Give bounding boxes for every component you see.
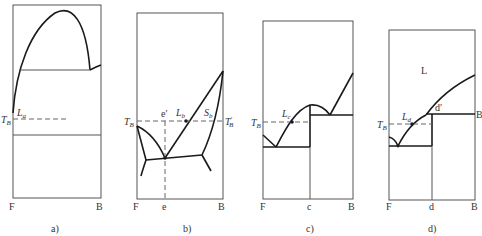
panel-b-caption: b) <box>183 223 191 235</box>
panel-a-liquidus-right <box>90 65 101 70</box>
panel-d-axis-b: B <box>471 201 478 212</box>
panel-a-frame <box>13 5 101 198</box>
panel-d-tb-label: TB <box>377 119 388 132</box>
panel-c-left-liquidus <box>263 135 276 147</box>
panel-d-liquid-region-label: L <box>421 65 427 76</box>
panel-c-lc-label: Lc <box>281 108 292 121</box>
panel-d-dprime-label: d′ <box>435 102 442 113</box>
panel-b-eutectic-point <box>163 156 167 160</box>
panel-d-liquidus-upper <box>426 75 475 115</box>
panel-c-right-liquidus <box>330 73 353 115</box>
panel-a-liquidus-curve <box>13 11 90 113</box>
panel-c-axis-c: c <box>307 201 312 212</box>
panel-a-axis-f: F <box>9 201 15 212</box>
panel-a: TB La F B a) <box>1 5 103 235</box>
panel-d-axis-d: d <box>429 201 434 212</box>
panel-d-left-liquidus <box>389 137 398 146</box>
panel-a-la-label: La <box>16 107 27 120</box>
panel-c-tb-label: TB <box>251 117 262 130</box>
panel-c: TB Lc F c B c) <box>251 21 355 235</box>
panel-d-caption: d) <box>428 223 436 235</box>
panel-d-line-b-label: B <box>476 109 482 120</box>
panel-a-tb-label: TB <box>1 114 12 127</box>
panel-b-eprime-label: e′ <box>161 108 168 119</box>
panel-d-ld-label: Ld <box>401 111 412 124</box>
panel-c-caption: c) <box>306 223 314 235</box>
panel-b-lb-label: Lb <box>175 107 186 120</box>
panel-c-lc-point <box>290 120 294 124</box>
panel-b-tb-right-label: T′B <box>225 115 234 129</box>
panel-b-left-solvus <box>137 126 146 176</box>
panel-b-axis-b: B <box>218 201 225 212</box>
panel-d-eutectic-point <box>397 145 400 148</box>
panel-b-eutectic-line <box>146 155 202 160</box>
panel-a-caption: a) <box>51 223 59 235</box>
panel-b-tb-left-label: TB <box>124 116 135 129</box>
panel-b-frame <box>137 13 223 199</box>
panel-b-sb-label: Sb <box>204 107 213 120</box>
panel-b: TB e′ Lb Sb T′B F e B b) <box>124 13 234 235</box>
panel-b-axis-e: e <box>162 201 167 212</box>
panel-b-right-liquidus <box>165 71 223 158</box>
panel-c-frame <box>263 21 353 199</box>
panel-a-axis-b: B <box>96 201 103 212</box>
panel-d-axis-f: F <box>386 201 392 212</box>
panel-c-axis-f: F <box>260 201 266 212</box>
phase-diagram-figure: TB La F B a) TB e′ Lb Sb T′B F e B b) <box>0 0 482 236</box>
panel-c-axis-b: B <box>348 201 355 212</box>
panel-b-right-solvus <box>202 155 211 171</box>
panel-d: L TB Ld d′ B F d B d) <box>377 30 482 235</box>
panel-b-axis-f: F <box>133 201 139 212</box>
